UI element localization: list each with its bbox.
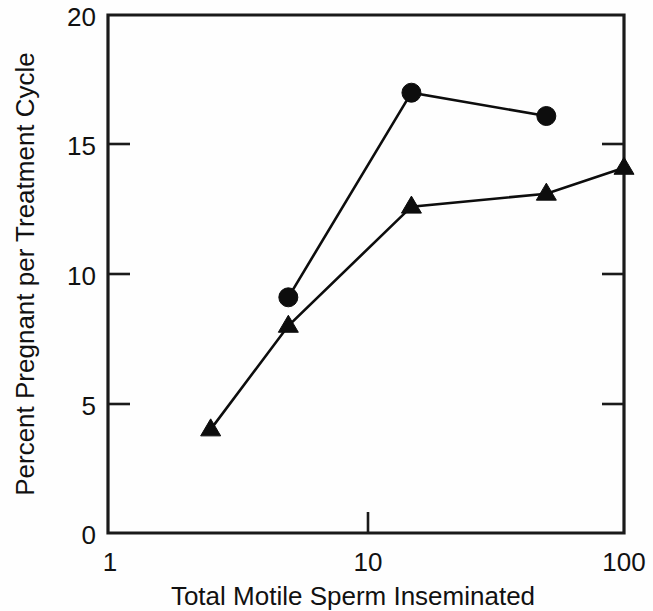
data-point-triangle bbox=[401, 196, 421, 213]
x-tick-label-100: 100 bbox=[602, 547, 645, 577]
y-tick-label-10: 10 bbox=[67, 261, 96, 291]
y-axis-title: Percent Pregnant per Treatment Cycle bbox=[10, 52, 40, 496]
y-tick-label-5: 5 bbox=[82, 391, 96, 421]
x-tick-label-10: 10 bbox=[354, 547, 383, 577]
y-tick-label-20: 20 bbox=[67, 2, 96, 32]
series-line-circle bbox=[288, 93, 546, 298]
y-tick-label-15: 15 bbox=[67, 131, 96, 161]
y-tick-label-0: 0 bbox=[82, 520, 96, 550]
chart-canvas: 20 15 10 5 0 1 10 100 Percent Pregnant p… bbox=[0, 0, 653, 611]
plot-frame bbox=[108, 15, 624, 533]
data-point-circle bbox=[279, 288, 298, 307]
chart-figure: 20 15 10 5 0 1 10 100 Percent Pregnant p… bbox=[0, 0, 653, 611]
data-point-circle bbox=[402, 83, 421, 102]
data-point-triangle bbox=[614, 157, 634, 174]
x-axis-title: Total Motile Sperm Inseminated bbox=[171, 581, 535, 611]
x-tick-label-1: 1 bbox=[103, 547, 117, 577]
data-series-layer bbox=[201, 83, 634, 436]
data-point-circle bbox=[537, 107, 556, 126]
